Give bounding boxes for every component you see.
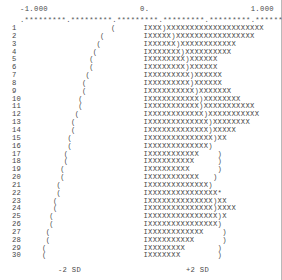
plot-row: 6(IXXXXXXXX)XXXXXX	[0, 64, 282, 72]
plot-row: 24(IXXXXXXXXXXXXXX)XXXX	[0, 205, 282, 213]
plot-row: 25(IXXXXXXXXXXXXXXX)X	[0, 213, 282, 221]
plot-row: 2(IXXXXX)XXXXXXXXXXXXXXXXX	[0, 33, 282, 41]
plot-row: 22(IXXXXXXXXXXXXXXX*	[0, 190, 282, 198]
scale-label-center: 0.	[140, 3, 149, 15]
scale-header: -1.000 0. 1.000	[0, 3, 282, 15]
plot-row: 21(IXXXXXXXXXXXXX)	[0, 182, 282, 190]
plot-row: 14(IXXXXXXXXXXXXX)XXXXX	[0, 127, 282, 135]
lower-bound-marker: (	[49, 221, 54, 229]
plot-row: 13(IXXXXXXXXXXXXX)XXXXXXXX	[0, 119, 282, 127]
row-number: 30	[12, 252, 28, 260]
lower-bound-marker: (	[42, 252, 47, 260]
plot-row: 16(IXXXXXXXXXXXXX)	[0, 143, 282, 151]
sd-label-lower: -2 SD	[58, 264, 81, 276]
plot-row: 20(IXXXXXXXXXXX )	[0, 174, 282, 182]
interval-bar: IXXXXXXX )	[143, 252, 222, 260]
plot-row: 3(IXXXXXX)XXXXXXXXXXXX	[0, 41, 282, 49]
sd-label-upper: +2 SD	[186, 264, 209, 276]
plot-row: 27(IXXXXXXXXXXXX )	[0, 229, 282, 237]
plot-rows: 1(IXXX)XXXXXXXXXXXXXXXXXXXXX2(IXXXXX)XXX…	[0, 25, 282, 260]
plot-row: 26(IXXXXXXXXXXXXXXX)	[0, 221, 282, 229]
plot-row: 4(IXXXXXXX)XXXXXXXXXX	[0, 49, 282, 57]
plot-row: 18(IXXXXXXXXXX )	[0, 158, 282, 166]
plot-row: 15(IXXXXXXXXXXXXXX)XX	[0, 135, 282, 143]
plot-row: 5(IXXXXXXXX)XXXXXX	[0, 56, 282, 64]
scale-label-left: -1.000	[20, 3, 48, 15]
sd-footer: -2 SD +2 SD	[0, 264, 282, 276]
plot-row: 19(IXXXXXXXXX )	[0, 166, 282, 174]
scale-label-right: 1.000	[251, 3, 274, 15]
ascii-plot-canvas: -1.000 0. 1.000 .*********.*********.***…	[0, 0, 282, 280]
plot-row: 8(IXXXXXXXXX)XXXXXX	[0, 80, 282, 88]
plot-row: 17(IXXXXXXXXXXX )	[0, 151, 282, 159]
lower-bound-marker: (	[67, 143, 72, 151]
plot-row: 7(IXXXXXXXXX)XXXXXX	[0, 72, 282, 80]
lower-bound-marker: (	[96, 41, 101, 49]
plot-row: 30(IXXXXXXX )	[0, 252, 282, 260]
lower-bound-marker: (	[111, 25, 116, 33]
plot-row: 23(IXXXXXXXXXXXXXX)XX	[0, 198, 282, 206]
